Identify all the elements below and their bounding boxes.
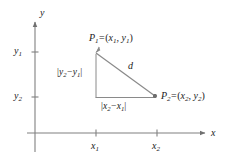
p2-close-paren: ) — [202, 90, 205, 101]
hypotenuse-label-d: d — [128, 61, 133, 71]
x-tick-label-x1: x1 — [91, 141, 99, 153]
p1-arrowhead — [96, 46, 100, 52]
diagram-canvas — [0, 0, 227, 162]
y-axis-label: y — [40, 8, 44, 18]
vleg-bar-close: | — [80, 67, 82, 77]
x-axis-label: x — [211, 128, 215, 138]
x-tick-label-x2: x2 — [152, 141, 160, 153]
y2-sub: 2 — [18, 95, 22, 103]
point-label-p1: P1=(x1, y1) — [89, 33, 133, 45]
y-tick-label-y1: y1 — [14, 46, 22, 58]
p1-comma: , — [117, 32, 120, 43]
x2-sub: 2 — [156, 145, 160, 153]
x1-sub: 1 — [95, 145, 99, 153]
hypotenuse-segment — [96, 53, 155, 96]
vertical-leg-label: |y2−y1| — [57, 68, 82, 79]
y-tick-label-y2: y2 — [14, 91, 22, 103]
hleg-bar-close: | — [124, 101, 126, 111]
distance-formula-figure: y x y1 y2 x1 x2 P1=(x1, y1) P2=(x2, y2) … — [0, 0, 227, 162]
point-label-p2: P2=(x2, y2) — [161, 91, 205, 103]
p1-close-paren: ) — [130, 32, 133, 43]
p2-comma: , — [189, 90, 192, 101]
y1-sub: 1 — [18, 50, 22, 58]
horizontal-leg-label: |x2−x1| — [101, 102, 126, 113]
